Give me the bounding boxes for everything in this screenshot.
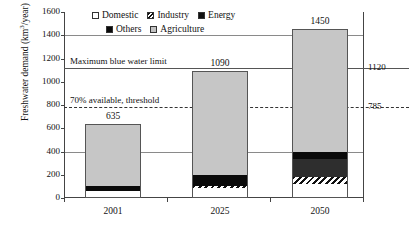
y-tick-label: 400 <box>47 147 61 156</box>
y-tick-label: 1600 <box>42 7 60 16</box>
y-tick-label: 200 <box>47 170 61 179</box>
others-swatch-icon <box>106 26 113 33</box>
y-axis-title: Freshwater demand (km3/year) <box>18 0 30 132</box>
legend-label: Industry <box>157 10 189 21</box>
bar-2001[interactable] <box>85 124 141 198</box>
legend-label: Others <box>116 24 141 35</box>
bar-total-label-2001: 635 <box>73 111 153 121</box>
legend-item-others[interactable]: Others <box>106 24 141 35</box>
y-tick-label: 0 <box>56 193 61 202</box>
x-tick-mark <box>363 198 364 202</box>
legend-item-domestic[interactable]: Domestic <box>92 10 138 21</box>
legend-item-agriculture[interactable]: Agriculture <box>150 24 204 35</box>
bar-segment-others <box>193 175 247 186</box>
legend-item-energy[interactable]: Energy <box>198 10 235 21</box>
bar-segment-energy <box>293 159 347 177</box>
x-tick-label-2001: 2001 <box>73 206 153 216</box>
bar-segment-agriculture <box>193 72 247 174</box>
legend-label: Energy <box>208 10 235 21</box>
x-tick-label-2025: 2025 <box>180 206 260 216</box>
reference-line-label-2: 70% available, threshold <box>68 95 161 105</box>
y-tick-label: 800 <box>47 100 61 109</box>
bar-segment-domestic <box>293 184 347 197</box>
bar-segment-others <box>293 152 347 159</box>
bar-segment-industry <box>293 177 347 184</box>
y-tick-label: 1000 <box>42 77 60 86</box>
y-tick-label: 1200 <box>42 54 60 63</box>
bar-segment-domestic <box>86 191 140 197</box>
legend-label: Agriculture <box>160 24 204 35</box>
y-axis-title-exponent: 3 <box>18 25 26 29</box>
x-tick-mark <box>167 198 168 202</box>
x-tick-label-2050: 2050 <box>280 206 360 216</box>
right-axis-value-2: 785 <box>368 102 382 111</box>
reference-line-label-1: Maximum blue water limit <box>68 56 169 66</box>
bar-segment-domestic <box>193 188 247 197</box>
freshwater-demand-chart: Freshwater demand (km3/year) 02004006008… <box>0 0 411 229</box>
right-axis-value-1: 1120 <box>368 63 386 72</box>
bar-segment-agriculture <box>293 30 347 152</box>
y-axis-title-suffix: /year) <box>20 3 30 25</box>
energy-swatch-icon <box>198 12 205 19</box>
x-tick-mark <box>270 198 271 202</box>
legend-item-industry[interactable]: Industry <box>147 10 189 21</box>
bar-segment-agriculture <box>86 125 140 186</box>
bar-2050[interactable] <box>292 29 348 198</box>
bar-total-label-2025: 1090 <box>180 58 260 68</box>
agriculture-swatch-icon <box>150 26 157 33</box>
chart-legend: DomesticIndustryEnergy OthersAgriculture <box>92 10 322 35</box>
right-axis-line <box>363 12 364 198</box>
x-tick-mark <box>64 198 65 202</box>
legend-row-2: OthersAgriculture <box>92 24 322 35</box>
y-tick-label: 1400 <box>42 30 60 39</box>
legend-row-1: DomesticIndustryEnergy <box>92 10 322 21</box>
domestic-swatch-icon <box>92 12 99 19</box>
y-tick-label: 600 <box>47 123 61 132</box>
bar-2025[interactable] <box>192 71 248 198</box>
industry-swatch-icon <box>147 12 154 19</box>
legend-label: Domestic <box>102 10 138 21</box>
y-axis-title-prefix: Freshwater demand (km <box>20 29 30 121</box>
